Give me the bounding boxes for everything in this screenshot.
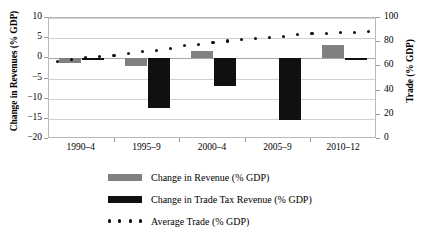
gridline <box>49 38 375 39</box>
data-point-dot <box>155 49 158 52</box>
chart-legend: Change in Revenue (% GDP)Change in Trade… <box>108 166 368 232</box>
data-point-dot <box>353 31 356 34</box>
bar-tradetax <box>148 58 170 108</box>
data-point-dot <box>169 47 172 50</box>
y-axis-right-tick-mark <box>376 138 380 139</box>
y-axis-right-tick-mark <box>376 114 380 115</box>
data-point-dot <box>226 39 229 42</box>
legend-item[interactable]: Average Trade (% GDP) <box>108 210 368 232</box>
legend-swatch-gray-icon <box>108 174 142 181</box>
data-point-dot <box>240 38 243 41</box>
x-axis-tick-mark <box>245 138 246 142</box>
x-axis-tick-label: 2000–4 <box>179 142 245 152</box>
y-axis-right-tick-label: 40 <box>384 85 424 95</box>
data-point-dot <box>339 31 342 34</box>
y-axis-right-tick-label: 0 <box>384 133 424 143</box>
bar-revenue <box>125 58 147 66</box>
bar-tradetax <box>345 58 367 60</box>
y-axis-right-tick-label: 100 <box>384 12 424 22</box>
data-point-dot <box>70 58 73 61</box>
y-axis-right-tick-label: 80 <box>384 36 424 46</box>
y-axis-right-tick-mark <box>376 65 380 66</box>
y-axis-left-tick-label: 0 <box>2 52 42 62</box>
plot-area <box>48 17 376 138</box>
y-axis-left-tick-mark <box>44 118 48 119</box>
legend-item[interactable]: Change in Revenue (% GDP) <box>108 166 368 188</box>
x-axis-tick-mark <box>179 138 180 142</box>
y-axis-right-tick-label: 20 <box>384 109 424 119</box>
x-axis-tick-label: 1995–9 <box>114 142 180 152</box>
y-axis-left-tick-mark <box>44 17 48 18</box>
bar-revenue <box>191 51 213 58</box>
legend-label: Average Trade (% GDP) <box>151 216 249 227</box>
y-axis-left-tick-label: 5 <box>2 32 42 42</box>
y-axis-right-tick-label: 60 <box>384 60 424 70</box>
data-point-dot <box>127 52 130 55</box>
data-point-dot <box>112 54 115 57</box>
data-point-dot <box>141 50 144 53</box>
x-axis-tick-mark <box>114 138 115 142</box>
x-axis-tick-mark <box>310 138 311 142</box>
x-axis-tick-label: 2005–9 <box>245 142 311 152</box>
legend-dotted-line-icon <box>108 218 142 225</box>
y-axis-right-tick-mark <box>376 90 380 91</box>
y-axis-left-tick-mark <box>44 37 48 38</box>
gridline <box>49 119 375 120</box>
chart-figure: Change in Revenues (% GDP) Trade (% GDP)… <box>0 0 424 234</box>
bar-tradetax <box>279 58 301 120</box>
y-axis-right-tick-mark <box>376 17 380 18</box>
y-axis-left-tick-mark <box>44 78 48 79</box>
data-point-dot <box>325 32 328 35</box>
y-axis-left-tick-mark <box>44 98 48 99</box>
y-axis-left-tick-label: −10 <box>2 93 42 103</box>
y-axis-left-tick-mark <box>44 138 48 139</box>
data-point-dot <box>268 36 271 39</box>
x-axis-tick-label: 2010–12 <box>310 142 376 152</box>
y-axis-right-tick-mark <box>376 41 380 42</box>
gridline <box>49 79 375 80</box>
data-point-dot <box>211 41 214 44</box>
y-axis-left-tick-label: −15 <box>2 113 42 123</box>
y-axis-left-tick-label: −5 <box>2 73 42 83</box>
y-axis-left-tick-label: 10 <box>2 12 42 22</box>
legend-label: Change in Trade Tax Revenue (% GDP) <box>151 194 312 205</box>
gridline <box>49 18 375 19</box>
gridline <box>49 99 375 100</box>
data-point-dot <box>197 43 200 46</box>
bar-tradetax <box>214 58 236 85</box>
legend-item[interactable]: Change in Trade Tax Revenue (% GDP) <box>108 188 368 210</box>
data-point-dot <box>254 37 257 40</box>
legend-label: Change in Revenue (% GDP) <box>151 172 269 183</box>
y-axis-left-tick-label: −20 <box>2 133 42 143</box>
bar-revenue <box>322 45 344 58</box>
data-point-dot <box>367 30 370 33</box>
data-point-dot <box>282 35 285 38</box>
data-point-dot <box>296 33 299 36</box>
data-point-dot <box>183 44 186 47</box>
plot-inner <box>49 18 375 137</box>
data-point-dot <box>310 32 313 35</box>
legend-swatch-black-icon <box>108 196 142 203</box>
x-axis-tick-label: 1990–4 <box>48 142 114 152</box>
y-axis-left-tick-mark <box>44 57 48 58</box>
